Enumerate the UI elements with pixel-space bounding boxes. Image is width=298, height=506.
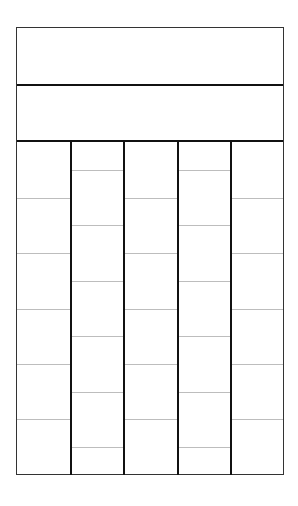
column-grid — [17, 140, 283, 475]
grid-row-line — [17, 198, 70, 199]
grid-row-line — [17, 364, 70, 365]
grid-column-2 — [70, 142, 123, 475]
template-frame — [16, 27, 284, 475]
grid-row-line — [72, 336, 123, 337]
grid-row-line — [125, 309, 176, 310]
grid-row-line — [17, 309, 70, 310]
grid-row-line — [72, 225, 123, 226]
grid-column-4 — [177, 142, 230, 475]
grid-row-line — [179, 447, 230, 448]
grid-row-line — [72, 281, 123, 282]
grid-row-line — [125, 253, 176, 254]
header-band-2 — [17, 84, 283, 140]
grid-row-line — [72, 447, 123, 448]
grid-row-line — [125, 198, 176, 199]
grid-column-5 — [230, 142, 283, 475]
grid-row-line — [232, 253, 283, 254]
grid-column-1 — [17, 142, 70, 475]
grid-row-line — [17, 253, 70, 254]
grid-row-line — [179, 281, 230, 282]
grid-row-line — [72, 170, 123, 171]
grid-row-line — [72, 392, 123, 393]
grid-row-line — [179, 170, 230, 171]
grid-row-line — [232, 419, 283, 420]
grid-row-line — [232, 198, 283, 199]
grid-row-line — [179, 392, 230, 393]
grid-row-line — [179, 336, 230, 337]
header-band-1 — [17, 28, 283, 84]
grid-row-line — [179, 225, 230, 226]
grid-row-line — [125, 364, 176, 365]
grid-column-3 — [123, 142, 176, 475]
grid-row-line — [125, 419, 176, 420]
grid-row-line — [232, 364, 283, 365]
grid-row-line — [17, 419, 70, 420]
grid-row-line — [232, 309, 283, 310]
